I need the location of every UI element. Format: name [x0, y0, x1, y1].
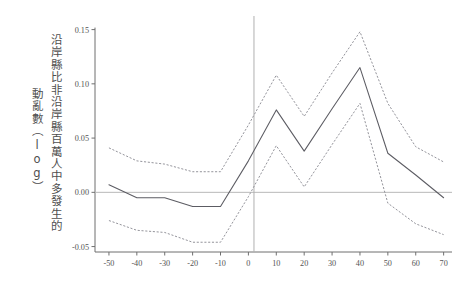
- plot-area: -0.050.000.050.100.15 -50-40-30-20-10010…: [0, 0, 463, 287]
- y-tick-label: 0.05: [75, 134, 89, 143]
- y-tick-label: 0.15: [75, 26, 89, 35]
- y-axis-ticks: -0.050.000.050.100.15: [72, 26, 95, 252]
- x-tick-label: -50: [103, 259, 114, 268]
- x-tick-label: 70: [440, 259, 448, 268]
- x-axis-ticks: -50-40-30-20-10010203040506070: [103, 252, 447, 268]
- y-axis-title-line-1: 沿岸縣比非沿岸縣百萬人中多發生的: [50, 34, 62, 232]
- x-tick-label: 50: [384, 259, 392, 268]
- event-study-chart: 沿岸縣比非沿岸縣百萬人中多發生的 動亂數（log） -0.050.000.050…: [0, 0, 463, 287]
- x-tick-label: -40: [131, 259, 142, 268]
- lower-confidence-band: [109, 103, 444, 242]
- y-axis-title-line-2: 動亂數（log）: [31, 88, 43, 193]
- upper-confidence-band: [109, 32, 444, 172]
- x-tick-label: 60: [412, 259, 420, 268]
- x-tick-label: -10: [215, 259, 226, 268]
- x-tick-label: -30: [159, 259, 170, 268]
- y-tick-label: 0.10: [75, 80, 89, 89]
- x-tick-label: 20: [300, 259, 308, 268]
- x-tick-label: 10: [272, 259, 280, 268]
- x-tick-label: 30: [328, 259, 336, 268]
- y-tick-label: 0.00: [75, 188, 89, 197]
- x-tick-label: -20: [187, 259, 198, 268]
- x-tick-label: 0: [246, 259, 250, 268]
- point-estimate-line: [109, 68, 444, 207]
- y-tick-label: -0.05: [72, 243, 89, 252]
- y-axis-title: 沿岸縣比非沿岸縣百萬人中多發生的 動亂數（log）: [8, 24, 62, 256]
- x-tick-label: 40: [356, 259, 364, 268]
